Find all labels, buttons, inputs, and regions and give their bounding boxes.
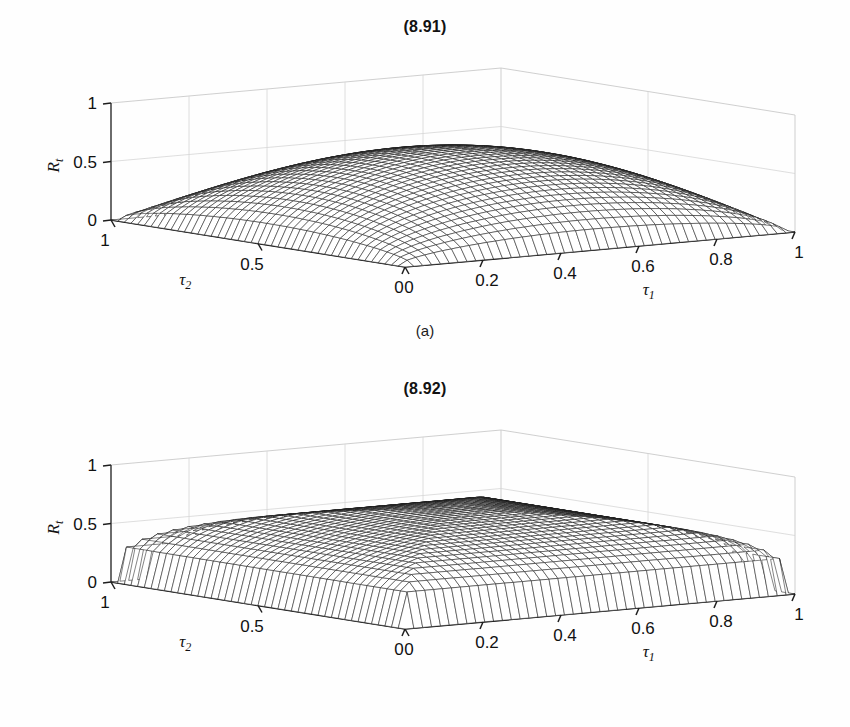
ytick-label-2: 0 bbox=[394, 278, 403, 297]
surface-plot-b: 00.51Rt00.20.40.60.81τ110.50τ2 bbox=[0, 396, 850, 676]
xtick-mark-3 bbox=[636, 246, 639, 253]
ztick-mark-1 bbox=[103, 524, 111, 525]
xtick-mark-3 bbox=[636, 608, 639, 615]
ztick-label-2: 1 bbox=[88, 456, 97, 475]
figure-panel-a: (8.91) 00.51Rt00.20.40.60.81τ110.50τ2 (a… bbox=[0, 0, 850, 368]
xtick-label-1: 0.2 bbox=[475, 271, 499, 290]
xtick-mark-0 bbox=[402, 629, 405, 636]
ytick-label-0: 1 bbox=[100, 593, 109, 612]
xtick-mark-1 bbox=[480, 260, 483, 267]
ytick-label-1: 0.5 bbox=[240, 617, 264, 636]
ztick-label-0: 0 bbox=[88, 211, 97, 230]
ztick-mark-0 bbox=[103, 220, 111, 221]
xtick-label-4: 0.8 bbox=[709, 250, 733, 269]
ytick-label-1: 0.5 bbox=[240, 255, 264, 274]
xtick-label-4: 0.8 bbox=[709, 612, 733, 631]
xtick-mark-2 bbox=[558, 253, 561, 260]
ztick-mark-2 bbox=[103, 465, 111, 466]
xtick-label-0: 0 bbox=[404, 640, 413, 659]
xtick-label-1: 0.2 bbox=[475, 633, 499, 652]
xtick-label-2: 0.4 bbox=[553, 626, 577, 645]
axis-label-tau1: τ1 bbox=[643, 280, 655, 302]
panel-a-caption: (a) bbox=[0, 322, 850, 339]
ztick-label-2: 1 bbox=[88, 94, 97, 113]
axis-label-tau1: τ1 bbox=[643, 642, 655, 664]
figure-page: (8.91) 00.51Rt00.20.40.60.81τ110.50τ2 (a… bbox=[0, 0, 850, 727]
xtick-mark-5 bbox=[792, 594, 795, 601]
xtick-label-3: 0.6 bbox=[631, 619, 655, 638]
ztick-mark-2 bbox=[103, 103, 111, 104]
figure-panel-b: (8.92) 00.51Rt00.20.40.60.81τ110.50τ2 (b… bbox=[0, 362, 850, 727]
xtick-mark-1 bbox=[480, 622, 483, 629]
surface-mesh bbox=[111, 145, 795, 267]
ztick-mark-0 bbox=[103, 582, 111, 583]
xtick-mark-5 bbox=[792, 232, 795, 239]
xtick-mark-2 bbox=[558, 615, 561, 622]
surface-plot-a: 00.51Rt00.20.40.60.81τ110.50τ2 bbox=[0, 34, 850, 314]
xtick-mark-4 bbox=[714, 239, 717, 246]
ytick-mark-2 bbox=[405, 629, 409, 636]
xtick-mark-0 bbox=[402, 267, 405, 274]
xtick-label-0: 0 bbox=[404, 278, 413, 297]
xtick-label-3: 0.6 bbox=[631, 257, 655, 276]
ytick-label-0: 1 bbox=[100, 231, 109, 250]
surface-mesh bbox=[111, 497, 795, 629]
xtick-mark-4 bbox=[714, 601, 717, 608]
xtick-label-2: 0.4 bbox=[553, 264, 577, 283]
axis-label-Rt: Rt bbox=[44, 158, 66, 173]
ytick-mark-2 bbox=[405, 267, 409, 274]
ztick-label-1: 0.5 bbox=[73, 153, 97, 172]
ztick-mark-1 bbox=[103, 162, 111, 163]
axis-label-Rt: Rt bbox=[44, 520, 66, 535]
ztick-label-0: 0 bbox=[88, 573, 97, 592]
ztick-label-1: 0.5 bbox=[73, 515, 97, 534]
axis-label-tau2: τ2 bbox=[179, 632, 191, 654]
xtick-label-5: 1 bbox=[794, 605, 803, 624]
wall-top-edge-left bbox=[111, 68, 501, 103]
ytick-label-2: 0 bbox=[394, 640, 403, 659]
axis-label-tau2: τ2 bbox=[179, 270, 191, 292]
wall-top-edge-left bbox=[111, 430, 501, 465]
xtick-label-5: 1 bbox=[794, 243, 803, 262]
